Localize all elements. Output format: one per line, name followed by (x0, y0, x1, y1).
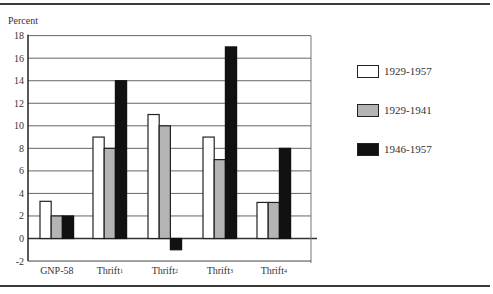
legend-swatch-black (357, 143, 379, 156)
bar-Thrift2-1946-1957 (170, 239, 181, 250)
bar-GNP-58-1929-1957 (40, 201, 51, 238)
y-tick-label: 12 (14, 98, 24, 109)
legend-label: 1946-1957 (384, 143, 432, 155)
y-tick-label: 2 (19, 210, 24, 221)
bar-Thrift4-1929-1941 (268, 202, 279, 238)
x-category-label: Thrift3 (207, 265, 233, 276)
x-category-label: Thrift4 (261, 265, 287, 276)
bar-GNP-58-1946-1957 (62, 216, 73, 239)
bar-GNP-58-1929-1941 (51, 216, 62, 239)
bar-Thrift4-1929-1957 (257, 202, 268, 238)
bar-Thrift3-1946-1957 (225, 47, 236, 239)
x-category-label: GNP-58 (40, 265, 73, 276)
legend-label: 1929-1941 (384, 104, 432, 116)
y-tick-label: 8 (19, 143, 24, 154)
x-category-label: Thrift1 (97, 265, 123, 276)
bar-Thrift1-1929-1957 (93, 137, 104, 238)
bar-Thrift1-1946-1957 (115, 81, 126, 239)
legend-swatch-white (357, 65, 379, 78)
y-tick-label: 0 (19, 233, 24, 244)
legend-item-1929-1957: 1929-1957 (357, 64, 432, 78)
bar-Thrift2-1929-1941 (159, 126, 170, 239)
y-tick-label: 18 (14, 30, 24, 41)
bar-Thrift4-1946-1957 (279, 148, 290, 238)
bar-Thrift3-1929-1957 (203, 137, 214, 238)
bar-Thrift2-1929-1957 (148, 115, 159, 239)
y-tick-label: 16 (14, 53, 24, 64)
legend-label: 1929-1957 (384, 65, 432, 77)
bar-Thrift3-1929-1941 (214, 160, 225, 239)
x-category-label: Thrift2 (152, 265, 178, 276)
y-tick-label: 10 (14, 120, 24, 131)
y-tick-label: 6 (19, 165, 24, 176)
legend-swatch-gray (357, 104, 379, 117)
bar-Thrift1-1929-1941 (104, 148, 115, 238)
y-tick-label: -2 (16, 256, 24, 267)
legend-item-1929-1941: 1929-1941 (357, 103, 432, 117)
y-tick-label: 4 (19, 188, 24, 199)
legend-item-1946-1957: 1946-1957 (357, 142, 432, 156)
y-tick-label: 14 (14, 75, 24, 86)
